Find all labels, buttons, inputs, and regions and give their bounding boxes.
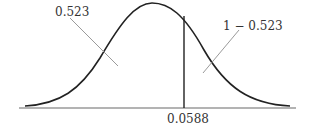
left-area-leader-line bbox=[70, 18, 118, 66]
left-area-label: 0.523 bbox=[55, 6, 89, 18]
cutoff-value-label: 0.0588 bbox=[167, 113, 209, 125]
right-area-label: 1 − 0.523 bbox=[223, 20, 283, 32]
right-area-leader-line bbox=[203, 30, 239, 73]
